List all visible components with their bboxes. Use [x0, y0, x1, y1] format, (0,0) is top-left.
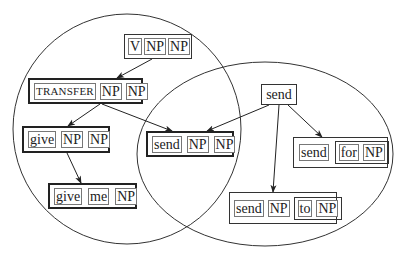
token: NP: [61, 131, 83, 148]
token: NP: [187, 136, 209, 153]
edge-send-send-np-np: [207, 105, 269, 131]
edge-vnpnp-transfer: [117, 59, 152, 78]
token: NP: [268, 200, 290, 217]
token: me: [88, 188, 109, 205]
node-send-np-np: send NP NP: [146, 131, 234, 157]
edge-send-send-for: [288, 105, 322, 137]
token: send: [299, 144, 329, 161]
node-give-me-np: give me NP: [48, 183, 137, 209]
token: TRANSFER: [34, 83, 96, 100]
token: NP: [88, 131, 110, 148]
token: send: [234, 200, 264, 217]
token: give: [54, 188, 82, 205]
pp-group: for NP: [335, 141, 389, 164]
node-send-for-np: send for NP: [293, 137, 388, 168]
node-send-np-to-np: send NP to NP: [229, 192, 337, 224]
node-transfer-np-np: TRANSFER NP NP: [28, 78, 143, 104]
token: NP: [316, 200, 338, 217]
token: NP: [144, 38, 166, 55]
edge-transfer-give: [68, 104, 100, 126]
token: NP: [168, 38, 190, 55]
token: V: [128, 38, 142, 55]
pp-group: to NP: [294, 197, 343, 220]
edge-send-send-to: [273, 105, 279, 192]
edge-transfer-send-np-np: [102, 104, 172, 131]
diagram-canvas: V NP NP TRANSFER NP NP give NP NP give m…: [0, 0, 408, 253]
node-label: send: [266, 87, 292, 103]
node-v-np-np: V NP NP: [124, 34, 192, 59]
token: for: [339, 144, 359, 161]
token: NP: [100, 83, 122, 100]
edge-give-give-me: [67, 153, 81, 183]
token: to: [298, 200, 313, 217]
token: send: [152, 136, 182, 153]
node-give-np-np: give NP NP: [22, 126, 110, 153]
token: NP: [115, 188, 137, 205]
token: NP: [363, 144, 385, 161]
token: NP: [126, 83, 148, 100]
token: give: [28, 131, 56, 148]
token: NP: [214, 136, 236, 153]
node-send: send: [261, 84, 297, 105]
